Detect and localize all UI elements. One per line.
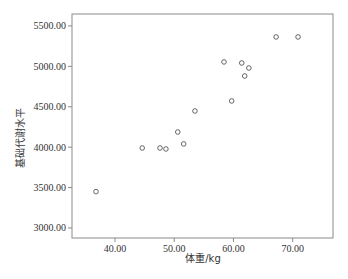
y-tick-label: 3500.00 — [34, 182, 67, 193]
y-tick-label: 4000.00 — [34, 142, 67, 153]
data-point-marker — [181, 142, 186, 147]
data-point-marker — [222, 60, 227, 65]
data-point-marker — [175, 130, 180, 135]
y-tick-label: 5500.00 — [34, 20, 67, 31]
y-tick-label: 3000.00 — [34, 222, 67, 233]
data-point-marker — [247, 66, 252, 71]
data-point-marker — [140, 146, 145, 151]
data-point-marker — [239, 61, 244, 66]
x-tick-label: 70.00 — [281, 243, 304, 254]
data-point-marker — [242, 74, 247, 79]
x-tick-label: 50.00 — [163, 243, 186, 254]
data-point-marker — [296, 35, 301, 40]
scatter-chart: 3000.003500.004000.004500.005000.005500.… — [0, 0, 348, 279]
plot-frame — [72, 14, 333, 238]
data-point-marker — [158, 146, 163, 151]
data-point-marker — [274, 35, 279, 40]
y-tick-label: 4500.00 — [34, 101, 67, 112]
y-tick-label: 5000.00 — [34, 61, 67, 72]
y-axis: 3000.003500.004000.004500.005000.005500.… — [34, 20, 73, 233]
y-axis-title: 基础代谢水平 — [14, 108, 26, 168]
data-point-marker — [193, 109, 198, 114]
data-points — [94, 35, 301, 194]
x-tick-label: 40.00 — [104, 243, 127, 254]
data-point-marker — [229, 99, 234, 104]
x-tick-label: 60.00 — [222, 243, 245, 254]
x-axis-title: 体重/kg — [185, 252, 221, 264]
data-point-marker — [94, 189, 99, 194]
x-axis: 40.0050.0060.0070.00 — [104, 238, 304, 254]
data-point-marker — [164, 147, 169, 152]
